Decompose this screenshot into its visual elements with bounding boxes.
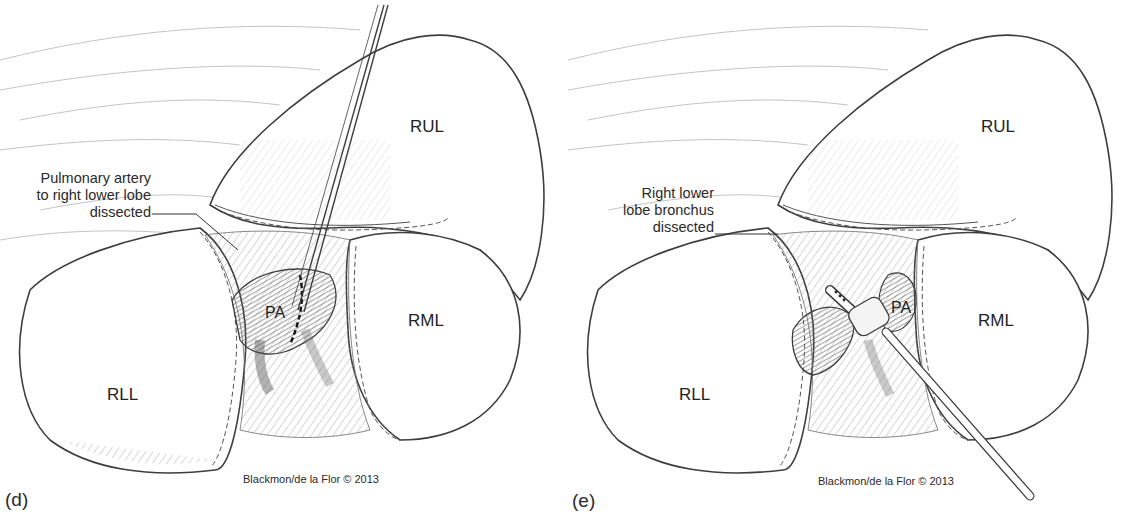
- callout-line-3: dissected: [18, 204, 151, 221]
- illustration-d: [0, 0, 568, 524]
- credit-line: Blackmon/de la Flor © 2013: [818, 475, 954, 487]
- label-rml: RML: [408, 312, 444, 329]
- callout-line-1: Pulmonary artery: [18, 170, 151, 187]
- panel-e: Right lower lobe bronchus dissected RUL …: [568, 0, 1137, 524]
- label-rml: RML: [978, 312, 1014, 329]
- credit-line: Blackmon/de la Flor © 2013: [243, 473, 379, 485]
- callout-bronchus: Right lower lobe bronchus dissected: [582, 185, 714, 236]
- label-pa: PA: [891, 300, 911, 316]
- callout-line-2: to right lower lobe: [18, 187, 151, 204]
- label-pa: PA: [265, 305, 285, 321]
- callout-line-2: lobe bronchus: [582, 202, 714, 219]
- panel-label: (e): [572, 490, 595, 512]
- callout-line-3: dissected: [582, 219, 714, 236]
- panel-label: (d): [5, 489, 28, 511]
- label-rll: RLL: [679, 386, 710, 403]
- label-rll: RLL: [107, 386, 138, 403]
- callout-line-1: Right lower: [582, 185, 714, 202]
- label-rul: RUL: [981, 118, 1015, 135]
- label-rul: RUL: [410, 118, 444, 135]
- callout-pulmonary-artery: Pulmonary artery to right lower lobe dis…: [18, 170, 151, 221]
- panel-d: Pulmonary artery to right lower lobe dis…: [0, 0, 568, 524]
- illustration-e: [568, 0, 1137, 524]
